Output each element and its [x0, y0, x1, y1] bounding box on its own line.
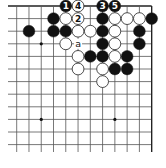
- black-stone: [84, 51, 96, 63]
- black-stone: [48, 13, 60, 25]
- black-stone: [121, 51, 133, 63]
- black-stone: [97, 51, 109, 63]
- star-point: [40, 42, 43, 45]
- black-stone: [146, 13, 158, 25]
- black-stone: [109, 63, 121, 75]
- black-stone: [60, 25, 72, 37]
- white-stone: [121, 13, 133, 25]
- white-stone: [72, 25, 84, 37]
- black-stone: [97, 38, 109, 50]
- white-stone: [109, 38, 121, 50]
- black-stone: [23, 25, 35, 37]
- move-number: 3: [99, 1, 105, 11]
- white-stone: 2: [72, 13, 84, 25]
- black-stone: 3: [97, 0, 109, 12]
- white-stone: [60, 13, 72, 25]
- star-point: [113, 118, 116, 121]
- move-number: 5: [112, 1, 118, 11]
- white-stone: [97, 76, 109, 88]
- markers: a: [74, 38, 82, 49]
- black-stone: 1: [60, 0, 72, 12]
- point-marker-a: a: [74, 38, 82, 49]
- go-board-diagram: 14352 a: [0, 0, 166, 168]
- white-stone: 4: [72, 0, 84, 12]
- move-number: 2: [75, 14, 81, 24]
- black-stone: [97, 25, 109, 37]
- move-number: 1: [63, 1, 69, 11]
- black-stone: [134, 38, 146, 50]
- white-stone: [134, 13, 146, 25]
- svg-text:a: a: [75, 38, 81, 49]
- white-stone: [109, 51, 121, 63]
- black-stone: [134, 25, 146, 37]
- white-stone: [84, 25, 96, 37]
- star-point: [40, 118, 43, 121]
- white-stone: [72, 51, 84, 63]
- white-stone: [60, 38, 72, 50]
- white-stone: [109, 25, 121, 37]
- black-stone: [121, 63, 133, 75]
- move-number: 4: [75, 1, 81, 11]
- white-stone: [109, 13, 121, 25]
- white-stone: [97, 63, 109, 75]
- black-stone: [97, 13, 109, 25]
- white-stone: [72, 63, 84, 75]
- black-stone: 5: [109, 0, 121, 12]
- black-stone: [48, 25, 60, 37]
